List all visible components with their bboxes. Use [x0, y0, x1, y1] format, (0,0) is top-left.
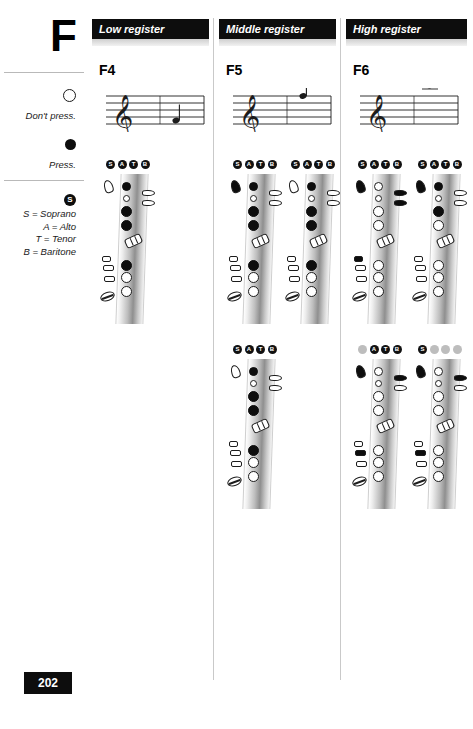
side-key-2[interactable]	[454, 385, 467, 391]
right-hand-key-3[interactable]	[121, 286, 132, 297]
right-hand-key-2[interactable]	[373, 457, 384, 468]
palm-key-2[interactable]	[230, 450, 241, 456]
palm-key-3[interactable]	[231, 276, 242, 282]
pinky-key[interactable]	[226, 475, 243, 489]
left-hand-key-1[interactable]	[434, 367, 443, 376]
left-hand-key-2[interactable]	[250, 195, 257, 202]
octave-key[interactable]	[354, 179, 367, 194]
left-hand-key-4[interactable]	[373, 220, 384, 231]
palm-key-2[interactable]	[415, 265, 426, 271]
palm-key-2[interactable]	[355, 265, 366, 271]
side-key-2[interactable]	[454, 200, 467, 206]
pinky-key[interactable]	[411, 290, 428, 304]
side-key-1[interactable]	[454, 190, 467, 196]
pinky-key[interactable]	[99, 290, 116, 304]
octave-key[interactable]	[102, 179, 115, 194]
right-hand-key-1[interactable]	[306, 260, 317, 271]
left-hand-key-3[interactable]	[248, 206, 259, 217]
pinky-key[interactable]	[351, 290, 368, 304]
octave-key[interactable]	[414, 364, 427, 379]
right-hand-key-3[interactable]	[373, 471, 384, 482]
right-hand-key-1[interactable]	[373, 445, 384, 456]
right-hand-key-3[interactable]	[306, 286, 317, 297]
octave-key[interactable]	[414, 179, 427, 194]
side-key-1[interactable]	[454, 375, 467, 381]
palm-key-3[interactable]	[416, 276, 427, 282]
left-hand-key-1[interactable]	[374, 182, 383, 191]
palm-key-3[interactable]	[416, 461, 427, 467]
palm-key-3[interactable]	[356, 276, 367, 282]
left-hand-key-1[interactable]	[249, 367, 258, 376]
left-hand-key-4[interactable]	[373, 405, 384, 416]
pinky-key[interactable]	[284, 290, 301, 304]
pinky-key[interactable]	[351, 475, 368, 489]
palm-key-1[interactable]	[354, 441, 363, 447]
palm-key-1[interactable]	[229, 441, 238, 447]
palm-key-1[interactable]	[354, 256, 363, 262]
left-hand-key-2[interactable]	[308, 195, 315, 202]
left-hand-key-2[interactable]	[375, 195, 382, 202]
left-hand-key-4[interactable]	[248, 220, 259, 231]
left-hand-key-1[interactable]	[434, 182, 443, 191]
left-hand-key-2[interactable]	[435, 380, 442, 387]
side-key-2[interactable]	[142, 200, 155, 206]
side-key-1[interactable]	[269, 190, 282, 196]
palm-key-2[interactable]	[230, 265, 241, 271]
right-hand-key-2[interactable]	[121, 272, 132, 283]
palm-key-2[interactable]	[415, 450, 426, 456]
left-hand-key-1[interactable]	[249, 182, 258, 191]
right-hand-key-3[interactable]	[433, 286, 444, 297]
right-hand-key-1[interactable]	[248, 445, 259, 456]
right-hand-key-2[interactable]	[433, 272, 444, 283]
palm-key-3[interactable]	[356, 461, 367, 467]
right-hand-key-2[interactable]	[248, 457, 259, 468]
palm-key-1[interactable]	[229, 256, 238, 262]
left-hand-key-3[interactable]	[373, 391, 384, 402]
right-hand-key-1[interactable]	[433, 260, 444, 271]
left-hand-key-3[interactable]	[433, 206, 444, 217]
side-key-1[interactable]	[142, 190, 155, 196]
left-hand-key-3[interactable]	[248, 391, 259, 402]
pinky-key[interactable]	[226, 290, 243, 304]
palm-key-2[interactable]	[288, 265, 299, 271]
side-key-1[interactable]	[327, 190, 340, 196]
octave-key[interactable]	[354, 364, 367, 379]
left-hand-key-2[interactable]	[435, 195, 442, 202]
left-hand-key-3[interactable]	[306, 206, 317, 217]
left-hand-key-3[interactable]	[373, 206, 384, 217]
right-hand-key-2[interactable]	[433, 457, 444, 468]
left-hand-key-2[interactable]	[375, 380, 382, 387]
right-hand-key-3[interactable]	[248, 286, 259, 297]
side-key-1[interactable]	[269, 375, 282, 381]
palm-key-2[interactable]	[103, 265, 114, 271]
left-hand-key-4[interactable]	[121, 220, 132, 231]
right-hand-key-3[interactable]	[248, 471, 259, 482]
left-hand-key-1[interactable]	[307, 182, 316, 191]
left-hand-key-4[interactable]	[306, 220, 317, 231]
right-hand-key-1[interactable]	[373, 260, 384, 271]
side-key-2[interactable]	[327, 200, 340, 206]
right-hand-key-1[interactable]	[121, 260, 132, 271]
right-hand-key-3[interactable]	[373, 286, 384, 297]
side-key-2[interactable]	[394, 200, 407, 206]
left-hand-key-1[interactable]	[122, 182, 131, 191]
side-key-2[interactable]	[269, 200, 282, 206]
side-key-1[interactable]	[394, 375, 407, 381]
palm-key-3[interactable]	[231, 461, 242, 467]
left-hand-key-3[interactable]	[433, 391, 444, 402]
palm-key-3[interactable]	[104, 276, 115, 282]
side-key-2[interactable]	[269, 385, 282, 391]
left-hand-key-4[interactable]	[433, 405, 444, 416]
pinky-key[interactable]	[411, 475, 428, 489]
right-hand-key-2[interactable]	[373, 272, 384, 283]
left-hand-key-1[interactable]	[374, 367, 383, 376]
left-hand-key-4[interactable]	[248, 405, 259, 416]
left-hand-key-3[interactable]	[121, 206, 132, 217]
palm-key-1[interactable]	[414, 441, 423, 447]
side-key-2[interactable]	[394, 385, 407, 391]
right-hand-key-1[interactable]	[433, 445, 444, 456]
right-hand-key-3[interactable]	[433, 471, 444, 482]
left-hand-key-2[interactable]	[123, 195, 130, 202]
right-hand-key-2[interactable]	[248, 272, 259, 283]
right-hand-key-1[interactable]	[248, 260, 259, 271]
